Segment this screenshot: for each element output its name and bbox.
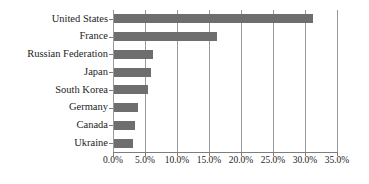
category-label: Canada	[77, 120, 114, 131]
y-axis-tick-mark	[109, 72, 113, 73]
bar	[113, 139, 133, 148]
bar	[113, 32, 217, 41]
category-label: Russian Federation	[27, 49, 113, 60]
bar-row	[113, 10, 337, 28]
x-axis-tick-label: 15.0%	[197, 156, 222, 166]
bar	[113, 103, 138, 112]
y-axis-tick-mark	[109, 108, 113, 109]
bar-chart: 0.0%5.0%10.0%15.0%20.0%25.0%30.0%35.0%Un…	[0, 0, 369, 184]
y-axis-line	[113, 10, 114, 152]
bar	[113, 14, 313, 23]
category-label: France	[79, 31, 113, 42]
category-label: Germany	[69, 102, 113, 113]
y-axis-tick-mark	[109, 37, 113, 38]
bar	[113, 85, 148, 94]
gridline	[337, 10, 338, 152]
bar-row	[113, 134, 337, 152]
bar-row	[113, 81, 337, 99]
bar-row	[113, 117, 337, 135]
y-axis-tick-mark	[109, 143, 113, 144]
category-label: United States	[52, 14, 113, 25]
x-axis-tick-label: 25.0%	[261, 156, 286, 166]
plot-area	[113, 10, 337, 152]
category-label: South Korea	[55, 85, 113, 96]
bar-row	[113, 46, 337, 64]
y-axis-tick-mark	[109, 90, 113, 91]
bar	[113, 50, 153, 59]
y-axis-tick-mark	[109, 125, 113, 126]
category-label: Ukraine	[74, 138, 113, 149]
x-axis-tick-label: 35.0%	[325, 156, 350, 166]
y-axis-tick-mark	[109, 19, 113, 20]
bar	[113, 121, 135, 130]
y-axis-tick-mark	[109, 54, 113, 55]
bar-row	[113, 63, 337, 81]
bar-row	[113, 28, 337, 46]
x-axis-tick-label: 0.0%	[103, 156, 123, 166]
x-axis-tick-label: 5.0%	[135, 156, 155, 166]
bar-row	[113, 99, 337, 117]
x-axis-tick-label: 30.0%	[293, 156, 318, 166]
x-axis-tick-label: 10.0%	[165, 156, 190, 166]
bar	[113, 68, 151, 77]
x-axis-tick-label: 20.0%	[229, 156, 254, 166]
